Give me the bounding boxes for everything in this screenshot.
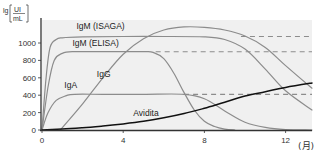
series-label: IgM (ELISA): [72, 38, 118, 48]
svg-text:mL: mL: [13, 15, 23, 22]
y-axis-label: lg UI mL: [3, 5, 28, 22]
series-label: IgM (ISAGA): [77, 21, 125, 31]
series-label: IgG: [97, 69, 111, 79]
x-tick-label: 4: [121, 136, 126, 145]
svg-text:UI: UI: [14, 6, 21, 13]
series-label: IgA: [64, 80, 77, 90]
y-tick-label: 800: [23, 56, 37, 65]
x-axis-ticks: 04812: [40, 130, 291, 145]
y-tick-label: 400: [23, 91, 37, 100]
x-axis-unit-label: (月): [298, 141, 314, 151]
svg-text:lg: lg: [3, 7, 9, 15]
y-tick-label: 1000: [18, 39, 36, 48]
x-tick-label: 0: [40, 136, 45, 145]
y-tick-label: 600: [23, 74, 37, 83]
x-tick-label: 12: [281, 136, 290, 145]
chart: lg UI mL IgM (ISAGA)IgM (ELISA)IgGIgAAvi…: [0, 0, 332, 161]
x-tick-label: 8: [202, 136, 207, 145]
y-axis-ticks: 02004006008001000: [18, 39, 41, 135]
series-label: Avidita: [133, 108, 159, 118]
y-tick-label: 0: [32, 126, 37, 135]
y-tick-label: 200: [23, 109, 37, 118]
